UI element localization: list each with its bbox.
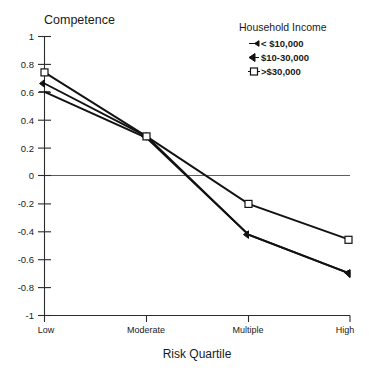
x-tick-label-multiple: Multiple bbox=[232, 325, 263, 335]
legend-item-10-30000[interactable]: $10-30,000 bbox=[249, 52, 309, 63]
y-tick-label: 0.6 bbox=[21, 87, 34, 98]
y-tick-label: -0.4 bbox=[18, 226, 34, 237]
y-tick-label: 0 bbox=[29, 170, 34, 181]
legend-label: $10-30,000 bbox=[261, 52, 309, 63]
series-markers-10-30000 bbox=[40, 80, 351, 278]
y-tick-label: 0.4 bbox=[21, 115, 34, 126]
series-markers-over-30000 bbox=[41, 69, 352, 243]
y-tick-label: 0.2 bbox=[21, 143, 34, 154]
legend-item-under-10000[interactable]: < $10,000 bbox=[249, 38, 304, 49]
y-tick-label: -1 bbox=[26, 310, 34, 321]
y-tick-label: 1 bbox=[29, 31, 34, 42]
chart-canvas: Competence 1 bbox=[0, 0, 369, 374]
y-tick-label: -0.6 bbox=[18, 254, 34, 265]
competence-risk-quartile-line-chart: Competence 1 bbox=[0, 0, 369, 374]
x-tick-label-high: High bbox=[336, 325, 355, 335]
x-tick-label-low: Low bbox=[38, 325, 55, 335]
y-tick-label: -0.2 bbox=[18, 198, 34, 209]
open-square-marker bbox=[41, 69, 48, 76]
x-axis-ticks bbox=[45, 316, 351, 323]
arrow-head-icon bbox=[255, 41, 260, 47]
filled-triangle-marker bbox=[40, 80, 45, 88]
open-square-marker bbox=[143, 133, 150, 140]
open-square-marker bbox=[345, 236, 352, 243]
legend-label: >$30,000 bbox=[261, 66, 301, 77]
legend-title: Household Income bbox=[239, 21, 327, 33]
open-square-marker bbox=[245, 200, 252, 207]
series-line-under-10000 bbox=[45, 92, 351, 274]
y-axis-tick-labels: 1 0.8 0.6 0.4 0.2 0 -0.2 -0.4 -0.6 -0.8 … bbox=[18, 31, 34, 321]
y-tick-label: -0.8 bbox=[18, 282, 34, 293]
legend-label: < $10,000 bbox=[261, 38, 304, 49]
y-tick-label: 0.8 bbox=[21, 59, 34, 70]
open-square-marker bbox=[251, 68, 258, 75]
series-line-over-30000 bbox=[45, 72, 351, 239]
x-axis-tick-labels: Low Moderate Multiple High bbox=[38, 325, 355, 335]
filled-triangle-marker bbox=[249, 54, 255, 62]
x-tick-label-moderate: Moderate bbox=[127, 325, 165, 335]
legend: Household Income < $10,000 $10-30,000 >$… bbox=[239, 21, 327, 77]
x-axis-title: Risk Quartile bbox=[163, 347, 232, 361]
y-axis-title: Competence bbox=[44, 13, 115, 27]
legend-item-over-30000[interactable]: >$30,000 bbox=[248, 66, 301, 77]
